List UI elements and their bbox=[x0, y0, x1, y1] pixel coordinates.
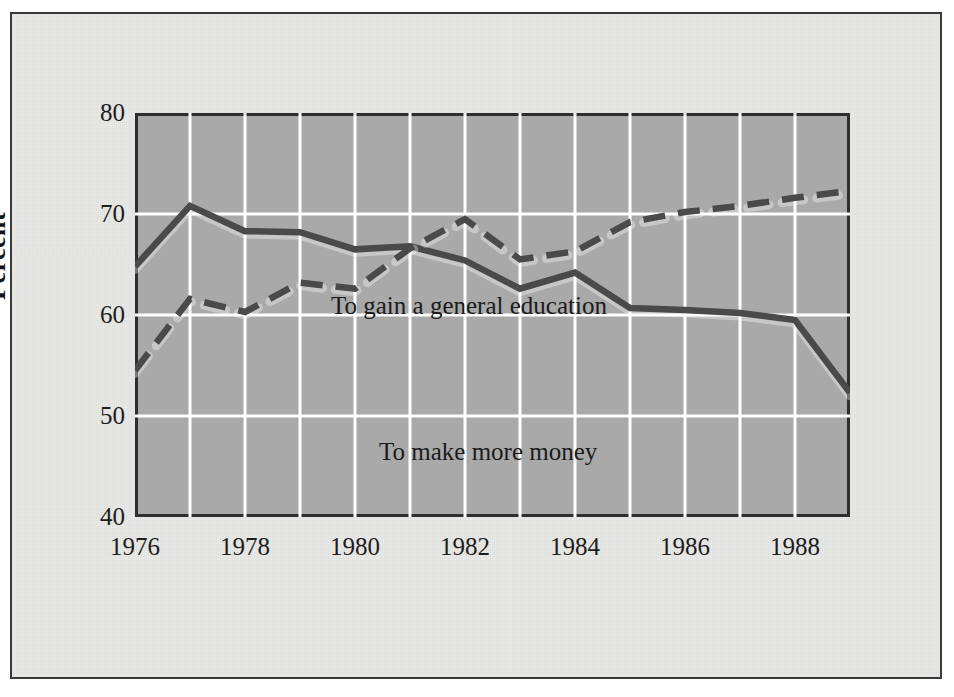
y-tick-label: 40 bbox=[63, 504, 125, 529]
x-tick-label: 1984 bbox=[520, 534, 630, 559]
y-tick-label: 50 bbox=[63, 403, 125, 428]
y-axis-title: Percent bbox=[0, 212, 12, 300]
series-label-general-education: To gain a general education bbox=[331, 293, 607, 318]
x-tick-label: 1978 bbox=[190, 534, 300, 559]
x-tick-label: 1980 bbox=[300, 534, 410, 559]
series-label-make-more-money: To make more money bbox=[379, 439, 597, 464]
y-tick-label: 70 bbox=[63, 201, 125, 226]
x-tick-label: 1986 bbox=[630, 534, 740, 559]
y-tick-label: 80 bbox=[63, 100, 125, 125]
plot-wrapper: To gain a general education To make more… bbox=[135, 113, 850, 517]
x-tick-label: 1988 bbox=[740, 534, 850, 559]
series-halo-1 bbox=[135, 194, 850, 374]
chart-figure: Percent 4050607080 197619781980198219841… bbox=[0, 0, 954, 697]
x-tick-label: 1982 bbox=[410, 534, 520, 559]
y-tick-label: 60 bbox=[63, 302, 125, 327]
x-tick-label: 1976 bbox=[80, 534, 190, 559]
